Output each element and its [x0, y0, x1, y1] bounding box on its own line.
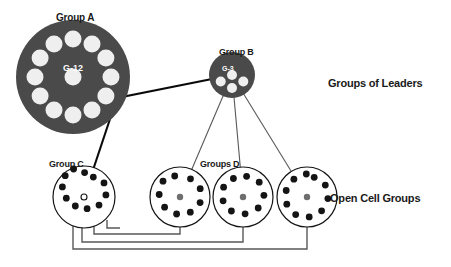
- group-a-ring-node: [32, 50, 49, 67]
- node-group-c[interactable]: [53, 166, 115, 228]
- node-group-b[interactable]: [209, 52, 255, 98]
- group-b-ring-node: [216, 77, 226, 87]
- group-a-ring-node: [84, 36, 101, 53]
- group-c-center-node: [81, 194, 87, 200]
- groups-d-1-ring-node: [161, 204, 168, 211]
- groups-d-1-ring-node: [187, 209, 194, 216]
- group-a-ring-node: [65, 107, 82, 124]
- groups-d-2-center-node: [240, 194, 246, 200]
- group-a-ring-node: [46, 101, 63, 118]
- node-group-a[interactable]: [16, 20, 130, 134]
- groups-d-3-ring-node: [311, 174, 318, 181]
- label-groups-of-leaders: Groups of Leaders: [328, 78, 422, 89]
- groups-d-1-ring-node: [187, 175, 194, 182]
- label-open-cell-groups: Open Cell Groups: [330, 193, 420, 204]
- group-a-ring-node: [103, 69, 120, 86]
- groups-d-2-ring-node: [255, 205, 262, 212]
- caption-group-b-count: G-3: [222, 65, 234, 72]
- groups-d-1-ring-node: [156, 191, 163, 198]
- groups-d-3-ring-node: [318, 207, 325, 214]
- diagram-svg: [0, 0, 451, 267]
- group-c-ring-node: [81, 169, 88, 176]
- group-c-ring-node: [90, 174, 97, 181]
- groups-d-3-ring-node: [322, 182, 329, 189]
- groups-d-3-ring-node: [306, 214, 313, 221]
- group-b-ring-node: [238, 77, 248, 87]
- group-a-ring-node: [32, 88, 49, 105]
- groups-d-2-ring-node: [230, 175, 237, 182]
- groups-d-3-ring-node: [283, 187, 290, 194]
- groups-d-3-ring-node: [292, 211, 299, 218]
- groups-d-3-ring-node: [291, 176, 298, 183]
- group-c-ring-node: [84, 205, 91, 212]
- label-group-a: Group A: [56, 13, 94, 23]
- groups-d-2-ring-node: [228, 208, 235, 215]
- groups-d-1-center-node: [177, 194, 183, 200]
- groups-d-3-ring-node: [283, 201, 290, 208]
- groups-d-1-ring-node: [173, 211, 180, 218]
- group-c-ring-node: [72, 203, 79, 210]
- group-c-ring-node: [103, 192, 110, 199]
- groups-d-1-ring-node: [197, 199, 204, 206]
- node-groups-d-3[interactable]: [277, 167, 337, 227]
- groups-d-1-ring-node: [197, 185, 204, 192]
- groups-d-2-ring-node: [220, 197, 227, 204]
- group-a-ring-node: [27, 69, 44, 86]
- groups-d-2-ring-node: [243, 173, 250, 180]
- group-c-ring-node: [59, 184, 66, 191]
- group-a-ring-node: [46, 36, 63, 53]
- groups-d-2-ring-node: [256, 179, 263, 186]
- label-groups-d: Groups D: [200, 160, 239, 169]
- groups-d-2-ring-node: [220, 184, 227, 191]
- groups-d-1-ring-node: [171, 173, 178, 180]
- diagram-canvas: Group A Group B Group C Groups D Groups …: [0, 0, 451, 267]
- groups-d-1-ring-node: [160, 178, 167, 185]
- group-c-ring-node: [101, 180, 108, 187]
- groups-d-3-ring-node: [303, 171, 310, 178]
- caption-group-a-count: G-12: [63, 64, 83, 73]
- group-c-ring-node: [62, 172, 69, 179]
- group-a-ring-node: [97, 88, 114, 105]
- feedback-loop-path-4: [107, 220, 120, 228]
- group-a-ring-node: [65, 31, 82, 48]
- node-groups-d-2[interactable]: [213, 167, 273, 227]
- group-b-ring-node: [227, 83, 237, 93]
- group-a-ring-node: [84, 101, 101, 118]
- group-c-ring-node: [63, 195, 70, 202]
- groups-d-3-center-node: [304, 194, 310, 200]
- groups-d-2-ring-node: [261, 192, 268, 199]
- group-c-ring-node: [96, 202, 103, 209]
- label-group-c: Group C: [49, 160, 84, 169]
- groups-d-2-ring-node: [242, 210, 249, 217]
- node-groups-d-1[interactable]: [150, 167, 210, 227]
- group-a-ring-node: [97, 50, 114, 67]
- label-group-b: Group B: [219, 48, 254, 57]
